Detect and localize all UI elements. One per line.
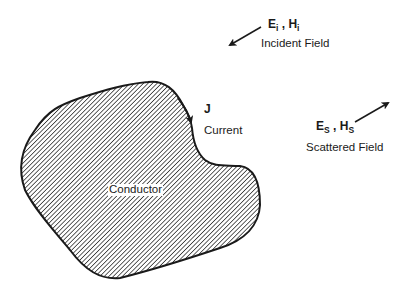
incident-h-subscript: i [297,23,299,33]
scattered-field-symbols: ES , HS [316,120,354,135]
scattered-field-arrow [355,103,388,122]
scattered-separator: , [330,119,340,133]
incident-field-label: Incident Field [261,38,329,50]
incident-field-symbols: Ei , Hi [268,18,299,33]
incident-e-symbol: E [268,17,276,31]
conductor-body [21,82,260,279]
conductor-label: Conductor [108,184,163,196]
incident-separator: , [278,17,288,31]
current-symbol: J [204,103,211,115]
scattered-e-symbol: E [316,119,324,133]
scattered-field-label: Scattered Field [306,142,383,154]
current-label: Current [204,125,242,137]
incident-h-symbol: H [288,17,297,31]
incident-field-arrow [230,27,261,45]
scattered-h-subscript: S [348,125,354,135]
scattering-diagram: Ei , Hi Incident Field J Current ES , HS… [0,0,410,297]
